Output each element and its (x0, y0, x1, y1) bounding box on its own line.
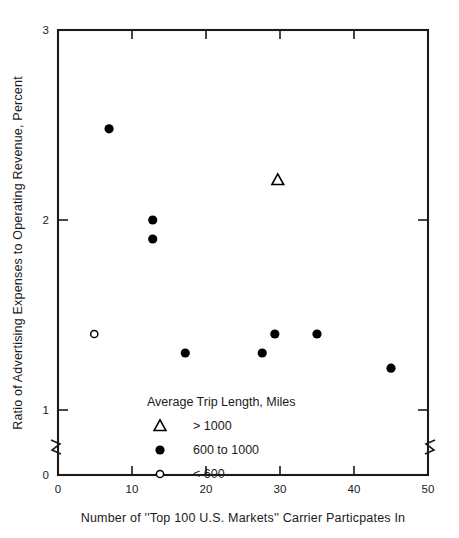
data-point (104, 124, 113, 133)
x-axis-tick-labels: 01020304050 (55, 483, 435, 495)
x-tick-label: 0 (55, 483, 61, 495)
chart-legend: Average Trip Length, Miles > 1000600 to … (147, 395, 295, 481)
data-point (181, 348, 190, 357)
y-tick-label: 3 (43, 24, 49, 36)
legend-label: > 1000 (193, 419, 232, 433)
y-axis-tick-labels: 0123 (43, 24, 49, 481)
x-tick-label: 30 (274, 483, 287, 495)
y-axis-break-left (51, 440, 61, 454)
scatter-chart-figure: 01020304050 0123 Average Trip Length, Mi… (0, 0, 459, 538)
y-tick-label: 2 (43, 214, 49, 226)
y-axis-ticks (58, 220, 428, 410)
data-point (270, 329, 279, 338)
legend-marker (156, 470, 163, 477)
x-tick-label: 40 (348, 483, 361, 495)
y-axis-title: Ratio of Advertising Expenses to Operati… (11, 76, 25, 430)
legend-label: 600 to 1000 (193, 443, 259, 457)
legend-marker (155, 445, 164, 454)
x-tick-label: 50 (422, 483, 435, 495)
legend-marker (154, 420, 166, 431)
y-axis-break-right (425, 440, 435, 454)
series-group (91, 330, 98, 337)
x-tick-label: 10 (126, 483, 139, 495)
x-tick-label: 20 (200, 483, 213, 495)
data-point (386, 364, 395, 373)
series-group (272, 174, 284, 185)
data-point (91, 330, 98, 337)
x-axis-title: Number of ''Top 100 U.S. Markets'' Carri… (81, 511, 406, 525)
data-point (148, 215, 157, 224)
data-point (258, 348, 267, 357)
y-tick-label: 1 (43, 404, 49, 416)
data-point (312, 329, 321, 338)
legend-title: Average Trip Length, Miles (147, 395, 295, 409)
legend-label: < 600 (193, 467, 225, 481)
data-point-group (91, 124, 396, 373)
legend-entries: > 1000600 to 1000< 600 (154, 419, 259, 481)
chart-canvas: 01020304050 0123 Average Trip Length, Mi… (0, 0, 459, 538)
data-point (148, 234, 157, 243)
series-group (104, 124, 395, 373)
data-point (272, 174, 284, 185)
y-tick-label: 0 (43, 469, 49, 481)
